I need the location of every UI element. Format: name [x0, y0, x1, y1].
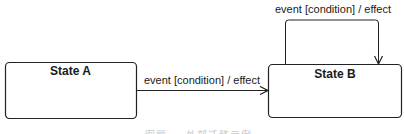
transition-b-self-label: event [condition] / effect: [275, 3, 391, 15]
state-a-name: State A: [5, 64, 136, 78]
transition-b-self[interactable]: [286, 20, 379, 64]
state-b-name: State B: [268, 67, 402, 81]
figure-caption: 图题 — 外部迁移示例: [145, 127, 252, 134]
transition-a-to-b-label: event [condition] / effect: [144, 74, 260, 86]
